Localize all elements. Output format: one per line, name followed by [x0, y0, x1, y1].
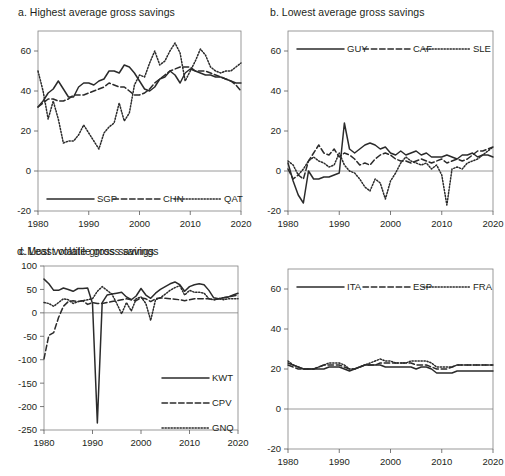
y-tick-label: -200 — [18, 401, 37, 412]
y-tick-label: 0 — [276, 165, 281, 176]
x-tick-label: 2020 — [482, 456, 503, 467]
y-tick-label: -20 — [267, 205, 281, 216]
x-tick-label: 2010 — [179, 437, 200, 448]
panel-d: -20020406019801990200020102020ITAESPFRA — [253, 238, 505, 476]
y-tick-label: 40 — [270, 323, 281, 334]
series-line-guy — [288, 123, 493, 203]
y-tick-label: 40 — [270, 85, 281, 96]
x-tick-label: 2020 — [227, 437, 248, 448]
x-tick-label: 1980 — [33, 437, 54, 448]
legend-label-gnq: GNQ — [212, 422, 234, 433]
x-tick-label: 1990 — [82, 437, 103, 448]
panel-b: b. Lowest average gross savings -2002040… — [253, 0, 505, 238]
y-tick-label: 60 — [270, 45, 281, 56]
legend-label-fra: FRA — [473, 281, 493, 292]
gross-savings-figure: a. Highest average gross savings -200204… — [0, 0, 505, 476]
legend-label-cpv: CPV — [212, 397, 232, 408]
y-tick-label: 60 — [20, 45, 31, 56]
x-tick-label: 2010 — [180, 218, 201, 229]
y-tick-label: 0 — [26, 165, 31, 176]
panel-a: a. Highest average gross savings -200204… — [0, 0, 253, 238]
x-tick-label: 2000 — [380, 456, 401, 467]
x-tick-label: 1980 — [27, 218, 48, 229]
series-line-caf — [288, 145, 493, 179]
x-tick-label: 1990 — [329, 456, 350, 467]
panel-c: -250-200-150-100-50050100198019902000201… — [0, 238, 253, 476]
legend-label-sle: SLE — [473, 43, 491, 54]
x-tick-label: 2020 — [482, 218, 503, 229]
legend-label-ita: ITA — [347, 281, 362, 292]
panel-d-chart: -20020406019801990200020102020ITAESPFRA — [253, 238, 505, 476]
panel-c-chart: -250-200-150-100-50050100198019902000201… — [0, 238, 253, 476]
y-tick-label: -20 — [17, 205, 31, 216]
x-tick-label: 1980 — [277, 218, 298, 229]
panel-b-chart: -20020406019801990200020102020GUYCAFSLE — [253, 0, 505, 238]
y-tick-label: -100 — [18, 354, 37, 365]
y-tick-label: 100 — [21, 260, 37, 271]
series-line-chn — [38, 67, 241, 107]
y-tick-label: 0 — [276, 403, 281, 414]
x-tick-label: 2000 — [130, 437, 151, 448]
plot-area-border — [288, 31, 493, 211]
series-line-cpv — [44, 295, 238, 359]
y-tick-label: 60 — [270, 283, 281, 294]
y-tick-label: 0 — [32, 307, 37, 318]
series-line-sgp — [38, 65, 241, 107]
y-tick-label: 40 — [20, 85, 31, 96]
x-tick-label: 2000 — [380, 218, 401, 229]
y-tick-label: -50 — [23, 331, 37, 342]
y-tick-label: 20 — [270, 363, 281, 374]
x-tick-label: 2010 — [431, 456, 452, 467]
x-tick-label: 2020 — [230, 218, 251, 229]
panel-d-title: d. Least volatile gross savings — [17, 245, 159, 257]
x-tick-label: 2010 — [431, 218, 452, 229]
legend-label-kwt: KWT — [212, 372, 233, 383]
x-tick-label: 1990 — [78, 218, 99, 229]
x-tick-label: 1990 — [329, 218, 350, 229]
y-tick-label: -20 — [267, 443, 281, 454]
plot-area-border — [38, 31, 241, 211]
x-tick-label: 2000 — [129, 218, 150, 229]
y-tick-label: 20 — [270, 125, 281, 136]
x-tick-label: 1980 — [277, 456, 298, 467]
y-tick-label: -250 — [18, 424, 37, 435]
series-line-esp — [288, 363, 493, 369]
y-tick-label: -150 — [18, 378, 37, 389]
legend-label-qat: QAT — [224, 193, 243, 204]
plot-area-border — [288, 269, 493, 449]
y-tick-label: 50 — [26, 284, 37, 295]
y-tick-label: 20 — [20, 125, 31, 136]
panel-a-chart: -20020406019801990200020102020SGPCHNQAT — [0, 0, 253, 238]
